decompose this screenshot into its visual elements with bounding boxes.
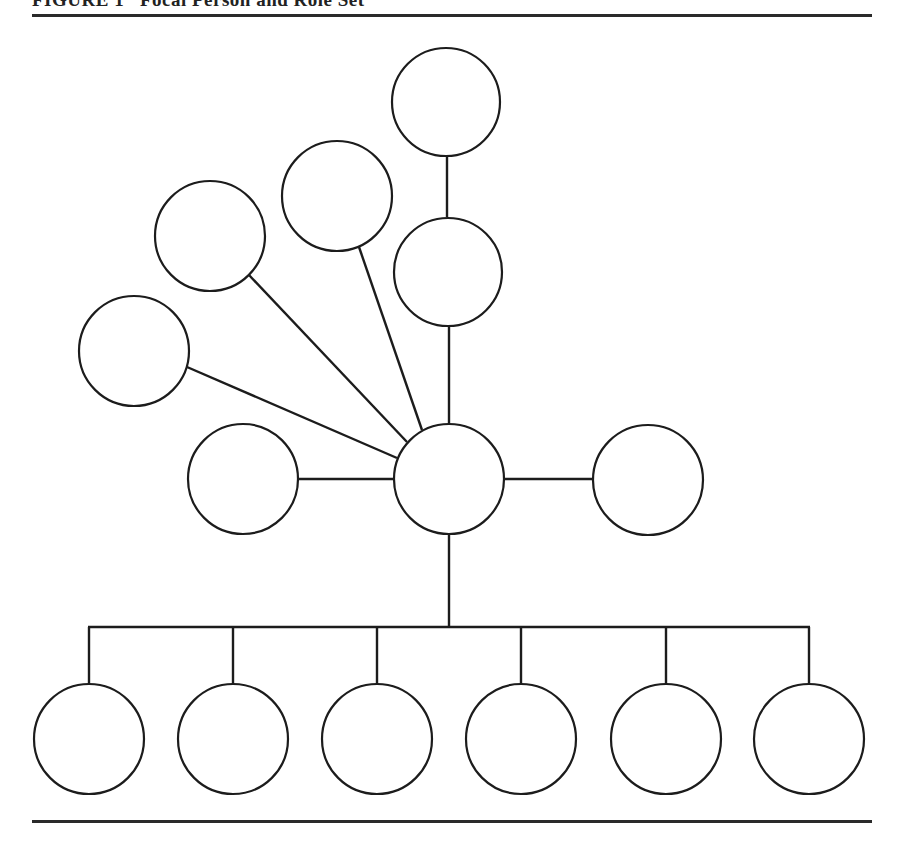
role-sender-fan-2 (155, 181, 265, 291)
role-sender-bottom-6 (754, 684, 864, 794)
role-sender-bottom-5 (611, 684, 721, 794)
role-sender-bottom-1 (34, 684, 144, 794)
role-sender-right (593, 425, 703, 535)
role-sender-bottom-3 (322, 684, 432, 794)
role-sender-top-upper (392, 48, 500, 156)
role-set-diagram (0, 0, 904, 847)
edge-focal-to-fan-2 (249, 275, 407, 442)
role-sender-left (188, 424, 298, 534)
bottom-rule (32, 820, 872, 823)
focal-person-node (394, 424, 504, 534)
role-sender-top-lower (394, 218, 502, 326)
role-sender-fan-1 (282, 141, 392, 251)
role-sender-bottom-4 (466, 684, 576, 794)
role-sender-bottom-2 (178, 684, 288, 794)
role-sender-fan-3 (79, 296, 189, 406)
